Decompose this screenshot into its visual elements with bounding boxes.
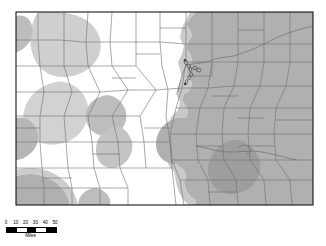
colorado-map-svg xyxy=(0,0,326,212)
scale-tick-label: 10 xyxy=(13,220,18,226)
scale-bar-segment xyxy=(17,228,27,232)
scale-tick-label: 40 xyxy=(43,220,48,226)
scale-tick-label: 30 xyxy=(33,220,38,226)
scale-bar-segment xyxy=(7,228,17,232)
scale-tick-label: 20 xyxy=(23,220,28,226)
scale-bar-segment xyxy=(46,228,56,232)
scale-tick-label: 50 xyxy=(52,220,57,226)
map-figure xyxy=(0,0,326,212)
scale-bar-segment xyxy=(36,228,46,232)
scale-bar-segment xyxy=(27,228,37,232)
point-marker-filled xyxy=(184,83,187,86)
map-page: 0 10 20 30 40 50 Miles xyxy=(0,0,326,246)
scale-tick-label: 0 xyxy=(5,220,8,226)
point-marker-filled xyxy=(184,59,186,61)
scale-bar-group: 0 10 20 30 40 50 Miles xyxy=(4,220,84,244)
scale-units-label: Miles xyxy=(6,232,55,239)
